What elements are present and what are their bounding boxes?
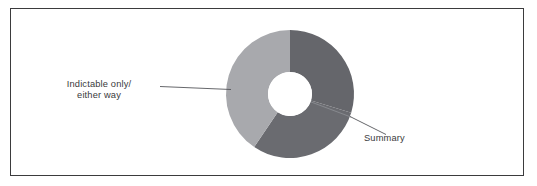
donut-hole <box>268 72 312 116</box>
slice-label-indictable-line2: either way <box>40 90 158 101</box>
chart-figure: Indictable only/ either way Summary <box>0 0 537 186</box>
slice-label-indictable: Indictable only/ either way <box>40 79 158 102</box>
slice-label-summary: Summary <box>364 133 442 144</box>
summary-leader-line <box>350 117 386 135</box>
slice-label-indictable-line1: Indictable only/ <box>67 79 131 89</box>
indictable-leader-line <box>160 87 231 90</box>
